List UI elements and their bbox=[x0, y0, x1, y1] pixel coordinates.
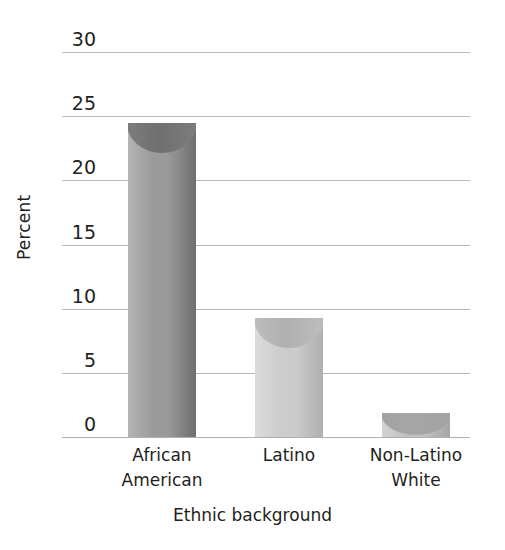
x-label-line2: American bbox=[82, 468, 242, 493]
x-label-3: Non-LatinoWhite bbox=[336, 443, 496, 493]
x-axis-title: Ethnic background bbox=[0, 505, 505, 525]
bar-body bbox=[128, 123, 196, 437]
bar-2[interactable] bbox=[255, 318, 323, 437]
bar-3[interactable] bbox=[382, 413, 450, 437]
bar-1[interactable] bbox=[128, 123, 196, 437]
bars-layer bbox=[62, 40, 470, 440]
x-label-line1: Non-Latino bbox=[370, 445, 462, 465]
bar-chart: Percent 302520151050 AfricanAmericanLati… bbox=[0, 0, 505, 550]
y-axis-title: Percent bbox=[14, 140, 34, 260]
x-label-line1: African bbox=[132, 445, 191, 465]
x-label-line1: Latino bbox=[263, 445, 315, 465]
plot-area: 302520151050 bbox=[62, 40, 470, 440]
x-category-labels: AfricanAmericanLatinoNon-LatinoWhite bbox=[62, 443, 470, 501]
x-label-line2: White bbox=[336, 468, 496, 493]
